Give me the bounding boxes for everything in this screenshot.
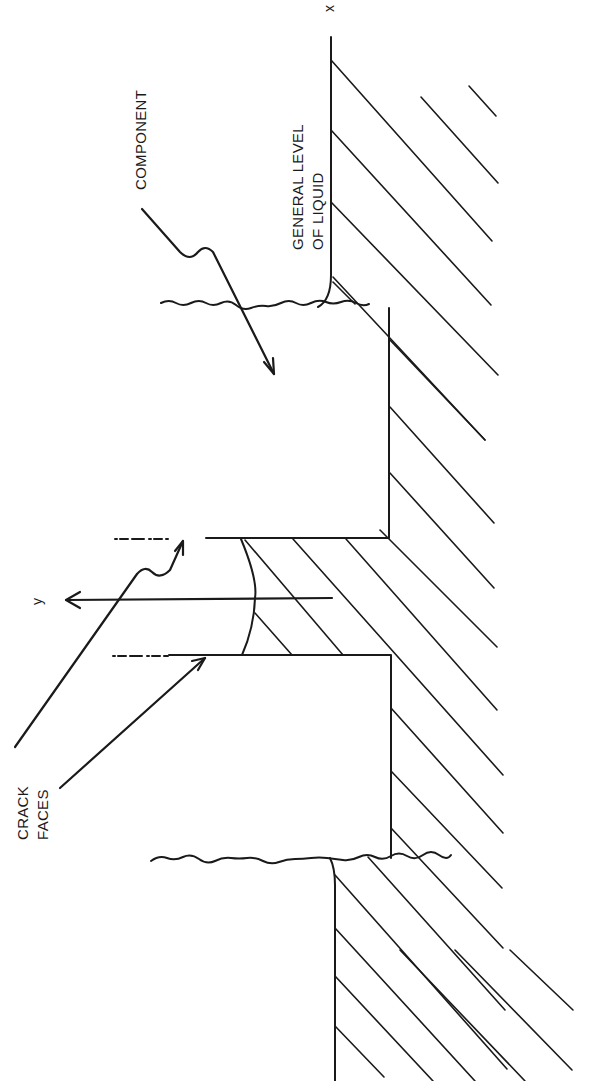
liquid-level-upper — [318, 37, 331, 307]
component-label: COMPONENT — [132, 90, 149, 190]
hatch-line — [255, 613, 292, 655]
component-leader-line — [142, 209, 274, 374]
hatch-line — [391, 771, 502, 888]
liquid-level-label-line1: GENERAL LEVEL — [289, 124, 306, 250]
liquid-level-label-line2: OF LIQUID — [309, 172, 326, 250]
crack-face-pointers — [15, 541, 205, 788]
hatch-line — [335, 928, 475, 1081]
component-break-line-lower — [151, 852, 451, 863]
hatch-line — [469, 86, 496, 116]
component-break-line-upper — [161, 301, 369, 309]
y-axis-line — [66, 598, 332, 600]
crack-leader-lower — [60, 658, 205, 788]
hatch-line — [400, 950, 525, 1081]
hatch-line — [331, 130, 491, 305]
hatch-line — [455, 950, 572, 1070]
hatch-line — [331, 202, 498, 375]
liquid-level-lower — [330, 858, 335, 1081]
hatch-line — [390, 473, 494, 588]
y-axis-label: y — [29, 598, 45, 605]
component-pointer — [142, 209, 274, 374]
x-axis-label: x — [321, 5, 337, 12]
crack-faces-label-line1: CRACK — [14, 786, 31, 840]
hatch-line — [293, 539, 503, 775]
liquid-surface — [169, 37, 391, 1081]
component-lower-edge — [169, 655, 391, 858]
component-upper-edge — [206, 308, 389, 538]
hatch-line — [335, 976, 433, 1081]
hatch-line — [390, 340, 485, 440]
hatch-line — [510, 950, 573, 1010]
hatch-line — [391, 828, 503, 948]
liquid-meniscus-in-crack — [241, 539, 255, 655]
hatch-line — [380, 530, 497, 647]
hatch-line — [335, 1026, 384, 1077]
hatch-line — [421, 97, 498, 183]
crack-leader-upper — [15, 541, 183, 747]
hatch-line — [390, 407, 494, 523]
diagram-canvas: COMPONENT GENERAL LEVEL OF LIQUID CRACK … — [0, 0, 593, 1081]
crack-faces-label-line2: FACES — [34, 789, 51, 840]
hatch-line — [391, 708, 503, 833]
